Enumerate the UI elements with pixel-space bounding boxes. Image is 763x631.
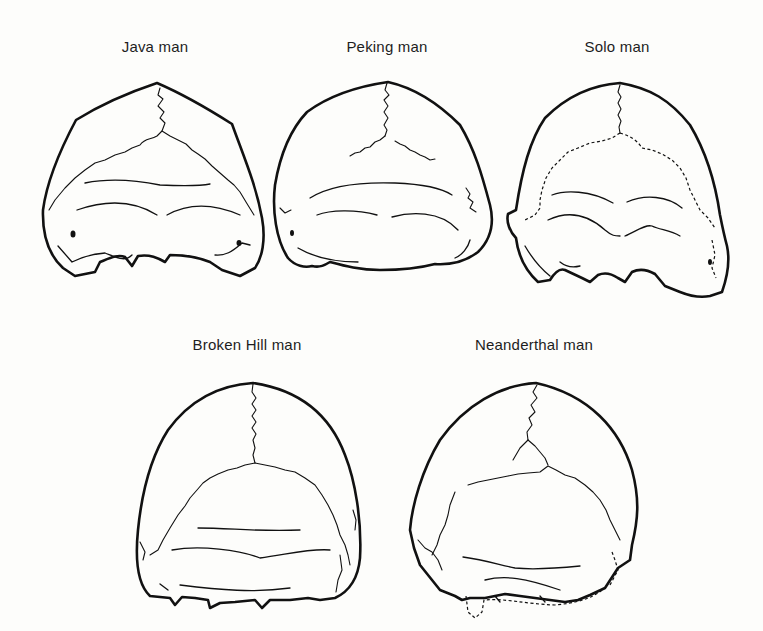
skull-comparison-figure: Java man Peking man: [0, 0, 763, 631]
neanderthal-man-skull-drawing: [0, 0, 763, 631]
